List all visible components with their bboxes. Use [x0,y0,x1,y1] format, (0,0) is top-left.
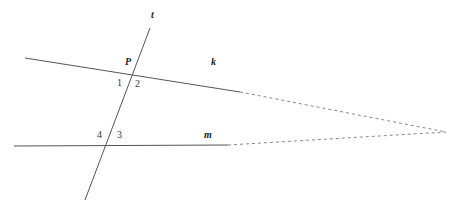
angle-label-2: 2 [135,79,140,89]
angle-label-4: 4 [97,130,102,140]
label-k: k [211,57,216,67]
angle-label-3: 3 [117,130,122,140]
line-m-dashed-extension [228,132,446,145]
angle-label-1: 1 [117,78,122,88]
geometry-figure [0,0,459,210]
diagram-canvas: t k m P 1 2 3 4 [0,0,459,210]
label-m: m [204,130,212,140]
line-m-solid [14,145,228,146]
line-t-transversal [85,28,150,200]
label-point-p: P [125,57,131,67]
label-t: t [151,10,154,20]
line-k-dashed-extension [240,92,446,132]
